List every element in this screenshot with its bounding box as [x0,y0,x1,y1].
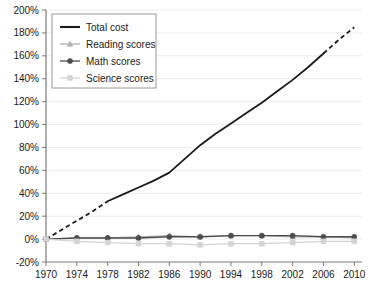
marker-square [352,239,357,244]
marker-square [44,237,49,242]
chart-container: -20%0%20%40%60%80%100%120%140%160%180%20… [0,0,370,287]
series-line-dashed [46,201,108,239]
x-tick-label: 1970 [35,269,58,280]
y-tick-label: 20% [19,211,39,222]
marker-square [74,239,79,244]
marker-square [290,240,295,245]
y-tick-label: 120% [13,96,39,107]
legend-label: Reading scores [86,39,155,50]
marker-square [198,242,203,247]
y-tick-label: -20% [16,257,39,268]
x-tick-label: 1982 [127,269,150,280]
marker-square [68,76,73,81]
marker-circle [105,235,110,240]
y-axis-ticks: -20%0%20%40%60%80%100%120%140%160%180%20… [13,5,46,268]
marker-circle [167,234,172,239]
marker-circle [321,234,326,239]
chart-legend: Total costReading scoresMath scoresScien… [52,14,156,88]
y-tick-label: 160% [13,50,39,61]
marker-circle [67,58,72,63]
x-tick-label: 1994 [220,269,243,280]
x-tick-label: 2002 [282,269,305,280]
marker-square [321,239,326,244]
x-tick-label: 1986 [158,269,181,280]
y-tick-label: 40% [19,188,39,199]
x-tick-label: 1990 [189,269,212,280]
line-chart: -20%0%20%40%60%80%100%120%140%160%180%20… [0,0,370,287]
marker-square [167,241,172,246]
marker-circle [290,233,295,238]
y-tick-label: 180% [13,27,39,38]
legend-label: Math scores [86,56,140,67]
marker-circle [259,233,264,238]
marker-square [136,241,141,246]
marker-square [105,240,110,245]
x-tick-label: 1974 [66,269,89,280]
series-line-dashed [323,27,354,53]
x-tick-label: 1998 [251,269,274,280]
x-tick-label: 2006 [312,269,335,280]
y-tick-label: 140% [13,73,39,84]
x-tick-label: 2010 [343,269,366,280]
legend-label: Science scores [86,73,154,84]
marker-circle [198,234,203,239]
marker-circle [228,233,233,238]
x-axis-ticks: 1970197419781982198619901994199820022006… [35,262,366,280]
y-tick-label: 60% [19,165,39,176]
marker-circle [352,234,357,239]
y-tick-label: 0% [25,234,40,245]
y-tick-label: 80% [19,142,39,153]
marker-square [228,241,233,246]
x-tick-label: 1978 [97,269,120,280]
y-tick-label: 100% [13,119,39,130]
marker-square [259,241,264,246]
y-tick-label: 200% [13,5,39,16]
marker-circle [136,235,141,240]
legend-label: Total cost [86,22,128,33]
